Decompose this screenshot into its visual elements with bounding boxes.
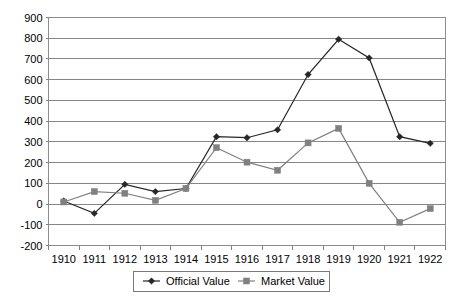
y-axis-tick-label: 900 — [24, 12, 42, 24]
x-axis-tick-label: 1913 — [143, 253, 167, 265]
data-point — [213, 133, 219, 139]
x-axis-tick-label: 1914 — [174, 253, 198, 265]
legend-item-label: Market Value — [261, 275, 325, 287]
y-axis-tick-label: -200 — [20, 240, 42, 252]
data-point — [397, 219, 403, 225]
data-point — [61, 199, 67, 205]
chart-canvas: 9008007006005004003002001000-100-200 191… — [0, 0, 462, 298]
data-point — [336, 125, 342, 131]
y-axis-tick-label: 100 — [24, 177, 42, 189]
gridlines — [49, 18, 446, 246]
x-axis-tick-label: 1920 — [357, 253, 381, 265]
x-axis-tick-labels: 1910191119121913191419151916191719181919… — [52, 253, 443, 265]
y-axis-tick-label: 800 — [24, 32, 42, 44]
x-axis-tick-label: 1915 — [204, 253, 228, 265]
y-axis-tick-label: 200 — [24, 157, 42, 169]
data-point — [152, 188, 158, 194]
data-series — [61, 36, 434, 225]
y-axis-tick-label: 300 — [24, 136, 42, 148]
data-point — [244, 135, 250, 141]
x-axis-tick-label: 1910 — [52, 253, 76, 265]
data-point — [152, 197, 158, 203]
x-axis-tick-label: 1922 — [418, 253, 442, 265]
data-point — [366, 55, 372, 61]
y-axis-tick-label: 0 — [36, 198, 42, 210]
data-point — [244, 159, 250, 165]
series-line — [64, 39, 430, 213]
chart-legend: Official ValueMarket Value — [133, 271, 329, 291]
y-axis-tick-label: -100 — [20, 219, 42, 231]
plot-area-border — [49, 18, 446, 246]
x-axis-tick-label: 1917 — [265, 253, 289, 265]
data-point — [213, 145, 219, 151]
data-point — [183, 186, 189, 192]
x-axis-tick-label: 1916 — [235, 253, 259, 265]
x-axis-tick-label: 1911 — [82, 253, 106, 265]
data-point — [274, 127, 280, 133]
y-axis-tick-label: 500 — [24, 94, 42, 106]
data-point — [275, 167, 281, 173]
data-point — [91, 189, 97, 195]
data-point — [122, 190, 128, 196]
x-axis-tick-label: 1918 — [296, 253, 320, 265]
data-point — [427, 140, 433, 146]
x-axis-tick-label: 1921 — [387, 253, 411, 265]
x-axis-tick-label: 1919 — [326, 253, 350, 265]
series-line — [64, 128, 430, 222]
y-axis-tick-label: 700 — [24, 53, 42, 65]
legend-marker — [244, 278, 250, 284]
x-axis-tick-marks — [49, 246, 446, 250]
series-1 — [61, 36, 434, 217]
y-axis-tick-label: 400 — [24, 115, 42, 127]
y-axis-tick-label: 600 — [24, 74, 42, 86]
x-axis-tick-label: 1912 — [113, 253, 137, 265]
data-point — [305, 140, 311, 146]
line-chart: 9008007006005004003002001000-100-200 191… — [0, 0, 462, 298]
data-point — [396, 133, 402, 139]
legend-item-label: Official Value — [166, 275, 230, 287]
y-axis-tick-labels: 9008007006005004003002001000-100-200 — [20, 12, 42, 252]
data-point — [427, 206, 433, 212]
data-point — [366, 180, 372, 186]
